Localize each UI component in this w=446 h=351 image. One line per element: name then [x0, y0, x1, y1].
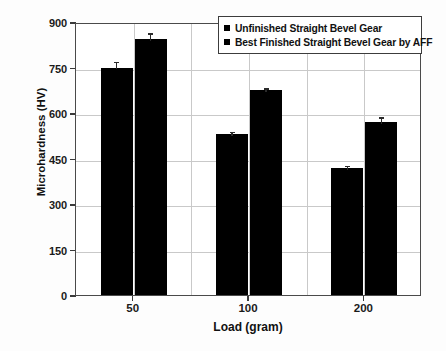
- error-bar-cap: [148, 33, 153, 35]
- x-tick-label: 50: [103, 302, 163, 314]
- x-tick-mark: [247, 296, 249, 301]
- legend-item-unfinished: Unfinished Straight Bevel Gear: [224, 21, 416, 35]
- bar: [365, 122, 397, 295]
- legend-swatch-icon: [224, 39, 230, 45]
- y-tick-label: 150: [33, 245, 67, 257]
- error-bar-cap: [345, 166, 350, 168]
- x-tick-label: 200: [333, 302, 393, 314]
- y-tick-label: 750: [33, 63, 67, 75]
- bar: [250, 90, 282, 295]
- legend-label: Unfinished Straight Bevel Gear: [235, 23, 382, 34]
- plot-area: [75, 23, 421, 296]
- legend-swatch-icon: [224, 25, 230, 31]
- x-tick-label: 100: [218, 302, 278, 314]
- bar-chart: Microhardness (HV) 0150300450600750900 5…: [0, 0, 446, 351]
- vertical-gridline: [191, 24, 192, 295]
- error-bar-cap: [114, 62, 119, 64]
- legend-label: Best Finished Straight Bevel Gear by AFF: [235, 37, 432, 48]
- bar: [331, 168, 363, 295]
- y-tick-label: 0: [33, 290, 67, 302]
- x-tick-mark: [132, 296, 134, 301]
- legend-item-best-finished: Best Finished Straight Bevel Gear by AFF: [224, 35, 416, 49]
- vertical-gridline: [307, 24, 308, 295]
- y-tick-label: 600: [33, 108, 67, 120]
- x-tick-mark: [363, 296, 365, 301]
- legend: Unfinished Straight Bevel Gear Best Fini…: [218, 16, 422, 54]
- x-axis-title: Load (gram): [75, 320, 421, 334]
- bar: [135, 39, 167, 295]
- y-tick-label: 900: [33, 17, 67, 29]
- bar: [216, 134, 248, 295]
- error-bar-cap: [230, 132, 235, 134]
- error-bar-cap: [379, 117, 384, 119]
- y-tick-label: 450: [33, 154, 67, 166]
- bar: [101, 68, 133, 296]
- y-tick-label: 300: [33, 199, 67, 211]
- error-bar-cap: [264, 88, 269, 90]
